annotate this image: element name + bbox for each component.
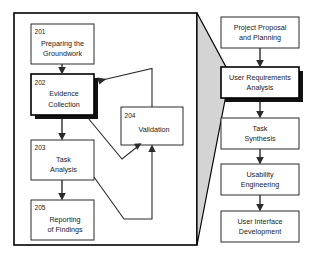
node-202-id: 202 [35,79,46,86]
node-203-line2: Analysis [50,165,77,174]
node-ui-development-line2: Development [239,227,281,236]
arrow-203-to-205 [58,180,66,201]
node-project-proposal[interactable]: Project Proposal and Planning [221,17,299,48]
arrow-requirements-to-synthesis [256,102,264,119]
node-usability-engineering-line1: Usability [246,170,274,179]
node-task-synthesis-line2: Synthesis [244,134,276,143]
node-205-line2: of Findings [47,225,83,234]
node-task-synthesis[interactable]: Task Synthesis [221,118,299,149]
node-204-id: 204 [125,112,136,119]
process-diagram: 201 Preparing the Groundwork 202 Evidenc… [0,0,311,257]
arrow-202-to-203 [58,119,66,141]
arrow-synthesis-to-usability [256,149,264,165]
arrow-201-to-202 [58,64,66,75]
arrow-usability-to-development [256,195,264,212]
node-205-id: 205 [35,204,46,211]
arrow-proposal-to-requirements [256,48,264,68]
node-user-requirements-line2: Analysis [247,83,274,92]
node-usability-engineering[interactable]: Usability Engineering [221,164,299,195]
node-202-line2: Collection [48,100,80,109]
node-201[interactable]: 201 Preparing the Groundwork [31,24,94,64]
node-204-line1: Validation [138,125,169,134]
node-task-synthesis-line1: Task [253,124,268,133]
arrow-203-to-204 [94,145,156,220]
node-203[interactable]: 203 Task Analysis [31,140,94,180]
node-203-id: 203 [35,144,46,151]
node-201-id: 201 [35,28,46,35]
node-ui-development-line1: User Interface [237,217,282,226]
arrow-204-to-202-feedback [98,69,153,108]
node-user-requirements-line1: User Requirements [229,73,291,82]
diagram-canvas: 201 Preparing the Groundwork 202 Evidenc… [0,0,311,257]
node-201-line1: Preparing the [41,39,84,48]
node-205-line1: Reporting [49,215,80,224]
node-user-requirements[interactable]: User Requirements Analysis [221,67,303,102]
node-project-proposal-line2: and Planning [239,33,281,42]
node-ui-development[interactable]: User Interface Development [221,211,299,242]
node-205[interactable]: 205 Reporting of Findings [31,200,94,240]
node-202-line1: Evidence [49,89,79,98]
node-204[interactable]: 204 Validation [121,107,183,145]
node-201-line2: Groundwork [43,49,83,58]
node-203-line1: Task [56,155,71,164]
node-project-proposal-line1: Project Proposal [234,23,287,32]
node-202[interactable]: 202 Evidence Collection [31,74,98,119]
node-usability-engineering-line2: Engineering [241,180,279,189]
